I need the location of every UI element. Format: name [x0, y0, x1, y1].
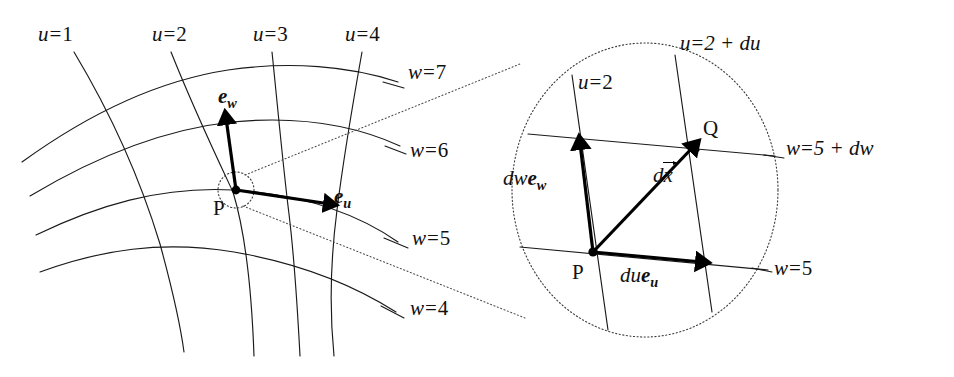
label-basis-ew: ew — [218, 86, 237, 110]
w4-curve — [40, 247, 396, 312]
label-inset-u-2-du: u=2 + du — [680, 33, 761, 54]
inset-w5dw-line — [528, 134, 775, 156]
label-inset-w-5: w=5 — [774, 258, 812, 279]
label-u-4: u=4 — [345, 24, 380, 45]
vector-dwew-shaft — [580, 143, 593, 252]
figure-root: u=1 u=2 u=3 u=4 w=7 w=6 w=5 w=4 P ew eu … — [0, 0, 954, 377]
vector-dx-shaft — [593, 146, 694, 252]
point-q-inset-marker — [696, 148, 699, 151]
left-grid-group — [22, 52, 525, 356]
u3-curve — [272, 52, 300, 356]
point-p-inset-marker — [588, 247, 597, 256]
magnifier-connector-top — [245, 64, 520, 175]
magnifier-circle-large — [512, 43, 778, 337]
label-w-7: w=7 — [408, 62, 446, 83]
magnifier-connector-bottom — [243, 206, 525, 318]
label-point-p-inset: P — [572, 262, 584, 283]
inset-u2-line — [572, 75, 608, 330]
label-basis-eu: eu — [334, 186, 351, 210]
w7-leader — [383, 82, 404, 88]
inset-u2du-line — [675, 55, 712, 312]
label-u-2: u=2 — [152, 24, 187, 45]
label-inset-w-5-dw: w=5 + dw — [786, 138, 874, 159]
vector-dueu-shaft — [593, 252, 702, 262]
point-p-left-marker — [232, 186, 241, 195]
diagram-canvas — [0, 0, 954, 377]
w4-leader — [381, 306, 404, 318]
w6-leader — [385, 146, 406, 154]
label-vector-dueu: dueu — [620, 265, 658, 289]
label-point-p-left: P — [213, 198, 225, 219]
right-inset-group — [512, 43, 784, 337]
label-w-6: w=6 — [410, 140, 448, 161]
label-u-1: u=1 — [38, 24, 73, 45]
label-w-4: w=4 — [410, 298, 448, 319]
u1-curve — [74, 52, 184, 352]
basis-vector-eu-shaft — [236, 190, 330, 204]
label-inset-u-2: u=2 — [578, 72, 613, 93]
label-u-3: u=3 — [253, 24, 288, 45]
label-vector-dx: dx — [653, 165, 673, 186]
label-vector-dwew: dwew — [503, 168, 546, 192]
w7-curve — [22, 66, 398, 162]
inset-w5-leader — [752, 268, 772, 272]
label-point-q-inset: Q — [703, 118, 718, 139]
w5-leader — [384, 238, 408, 248]
label-w-5: w=5 — [412, 228, 450, 249]
